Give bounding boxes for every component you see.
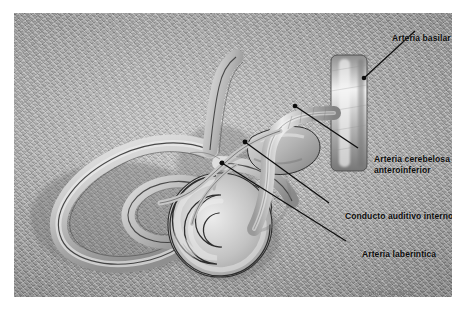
dot-arteria-laberintica — [220, 161, 225, 166]
label-arteria-laberintica: Arteria laberintica — [362, 249, 436, 260]
watermark-credit: ©marie rossettie — [359, 289, 413, 296]
dot-arteria-basilar — [362, 76, 367, 81]
dot-arteria-cerebelosa — [293, 104, 298, 109]
illustration-plate: Arteria basilar Arteria cerebelosa anter… — [14, 13, 452, 297]
dot-conducto-auditivo — [243, 140, 248, 145]
label-line-2: anteroinferior — [374, 165, 431, 175]
label-line-1: Arteria cerebelosa — [374, 154, 450, 164]
label-conducto-auditivo-interno: Conducto auditivo interno — [345, 211, 452, 222]
label-arteria-basilar: Arteria basilar — [392, 33, 451, 44]
figure-canvas: Arteria basilar Arteria cerebelosa anter… — [0, 0, 466, 315]
label-arteria-cerebelosa-anteroinferior: Arteria cerebelosa anteroinferior — [374, 154, 452, 175]
